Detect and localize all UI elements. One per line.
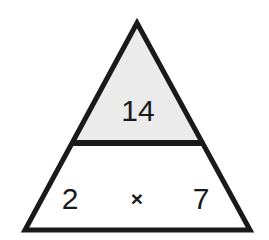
fact-family-triangle: 14 2 × 7 <box>0 0 269 240</box>
product-value: 14 <box>121 94 154 127</box>
diagram-canvas: 14 2 × 7 <box>0 0 269 240</box>
left-factor-value: 2 <box>62 182 79 215</box>
multiplication-operator: × <box>131 187 143 210</box>
right-factor-value: 7 <box>193 182 210 215</box>
